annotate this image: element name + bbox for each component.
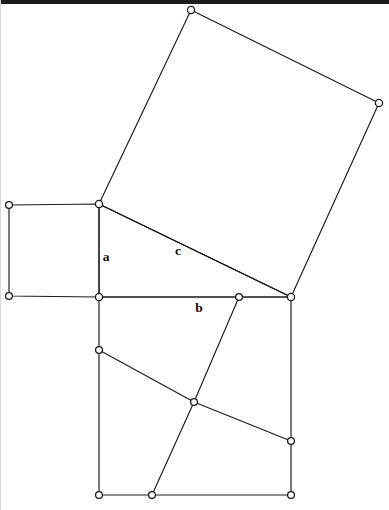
vertex-square-a-bottom-left xyxy=(6,293,13,300)
vertex-dissection-top-mid xyxy=(236,294,243,301)
vertex-triangle-right-angle xyxy=(95,293,102,300)
side-label-layer: a b c xyxy=(103,243,203,315)
perigal-cut-northeast-southwest xyxy=(152,297,239,495)
square-on-leg-a xyxy=(9,204,99,297)
vertex-square-c-top xyxy=(187,6,194,13)
vertex-dissection-center xyxy=(191,399,198,406)
square-on-hypotenuse-c xyxy=(99,10,379,297)
side-label-b: b xyxy=(195,300,203,315)
vertex-dissection-bottom-mid xyxy=(149,492,156,499)
vertex-square-b-bottom-right xyxy=(288,492,295,499)
side-label-a: a xyxy=(103,249,110,264)
square-c-outline xyxy=(99,10,379,297)
vertex-square-a-top-left xyxy=(6,202,13,209)
vertex-dissection-left-mid xyxy=(96,347,103,354)
vertex-marker-layer xyxy=(6,6,383,498)
square-on-leg-b xyxy=(99,297,291,495)
right-triangle xyxy=(99,204,291,297)
perigal-dissection-cuts xyxy=(99,297,291,495)
vertex-triangle-far xyxy=(287,293,294,300)
square-b-outline xyxy=(99,297,291,495)
geometry-canvas: a b c xyxy=(0,0,389,510)
perigal-cut-northwest-southeast xyxy=(99,350,291,441)
square-a-outline xyxy=(9,204,99,297)
right-triangle-outline xyxy=(99,204,291,297)
pythagorean-dissection-figure: a b c xyxy=(0,0,389,510)
vertex-square-c-right xyxy=(375,99,382,106)
vertex-square-b-bottom-left xyxy=(96,492,103,499)
vertex-triangle-apex xyxy=(95,200,102,207)
vertex-dissection-right-mid xyxy=(288,438,295,445)
side-label-c: c xyxy=(175,243,181,258)
